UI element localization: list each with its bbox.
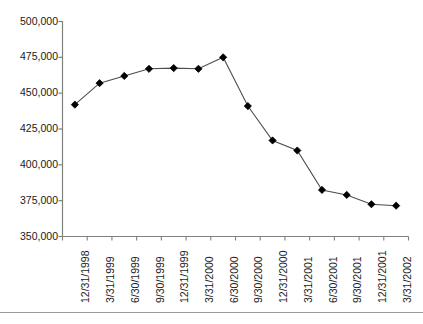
x-axis-tick-label: 6/30/2001 [328,256,339,303]
x-axis-tick-label: 3/31/2002 [402,256,413,303]
line-chart: 500,000475,000450,000425,000400,000375,0… [0,0,423,324]
chart-page: 500,000475,000450,000425,000400,000375,0… [0,0,423,324]
x-axis-tick-label: 3/31/2000 [204,256,215,303]
x-axis-tick-label: 12/31/2001 [377,250,388,303]
x-axis-tick-label: 12/31/2000 [278,250,289,303]
x-axis-tick-label: 9/30/2000 [253,256,264,303]
x-axis-label-group: 12/31/19983/31/19996/30/19999/30/199912/… [0,0,423,324]
footer-divider [0,312,423,313]
x-axis-tick-label: 6/30/2000 [229,256,240,303]
x-axis-tick-label: 9/30/1999 [155,256,166,303]
x-axis-tick-label: 3/31/1999 [105,256,116,303]
x-axis-tick-label: 12/31/1999 [179,250,190,303]
x-axis-tick-label: 12/31/1998 [80,250,91,303]
x-axis-tick-label: 9/30/2001 [352,256,363,303]
x-axis-tick-label: 3/31/2001 [303,256,314,303]
x-axis-tick-label: 6/30/1999 [130,256,141,303]
